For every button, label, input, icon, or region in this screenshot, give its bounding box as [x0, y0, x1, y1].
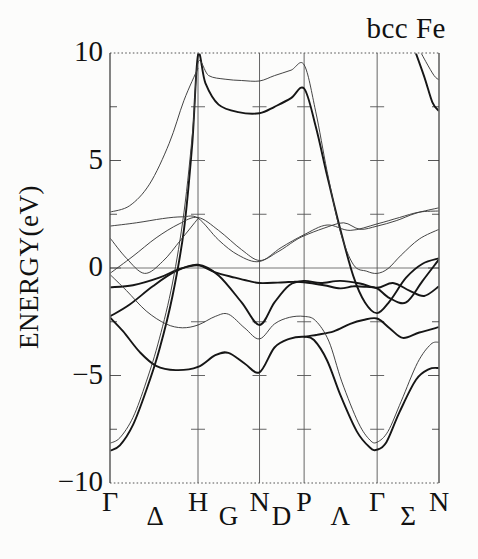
y-tick-label: −10 — [31, 467, 103, 496]
kpoint-label: H — [188, 487, 208, 518]
band-curve — [110, 68, 198, 212]
kpoint-label: N — [429, 487, 449, 518]
ksegment-label: Λ — [331, 502, 351, 532]
kpoint-label: Γ — [102, 487, 118, 518]
band-curve — [110, 265, 439, 325]
ksegment-label: Σ — [400, 502, 416, 532]
kpoint-label: Γ — [369, 487, 385, 518]
band-structure-figure: bcc Fe ENERGY(eV) 1050−5−10ΓHNPΓNΔGDΛΣ — [0, 0, 478, 559]
kpoint-label: N — [249, 487, 269, 518]
y-tick-label: 10 — [31, 37, 103, 66]
kpoint-label: P — [296, 487, 312, 518]
y-tick-label: 5 — [31, 145, 103, 174]
ksegment-label: D — [272, 502, 292, 532]
minority-spin-bands — [110, 40, 439, 443]
band-curve — [110, 208, 439, 274]
band-curve — [304, 318, 439, 338]
majority-spin-bands — [110, 44, 439, 450]
y-tick-label: −5 — [31, 360, 103, 389]
band-curve — [413, 44, 439, 111]
ksegment-label: Δ — [146, 502, 163, 532]
y-tick-label: 0 — [31, 252, 103, 281]
ksegment-label: G — [219, 502, 239, 532]
